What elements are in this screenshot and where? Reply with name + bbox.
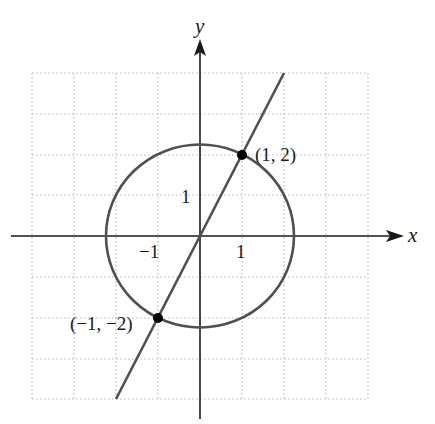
tick-label-x-neg1: −1 <box>139 241 159 262</box>
coordinate-diagram: y x 1 −1 1 (1, 2) (−1, −2) <box>0 0 435 424</box>
point-label-1-2: (1, 2) <box>255 144 296 166</box>
point-label-neg1-neg2: (−1, −2) <box>70 313 133 335</box>
point-neg1-neg2 <box>153 313 163 323</box>
tick-label-y-1: 1 <box>181 186 191 207</box>
tick-label-x-1: 1 <box>236 241 246 262</box>
x-axis-label: x <box>407 223 418 247</box>
point-1-2 <box>237 150 247 160</box>
axes <box>11 39 404 419</box>
y-axis-label: y <box>193 14 205 38</box>
